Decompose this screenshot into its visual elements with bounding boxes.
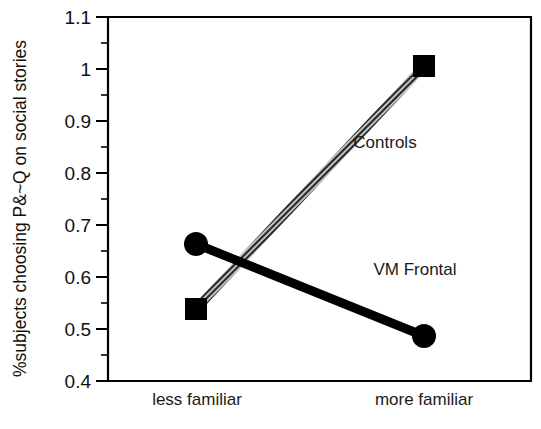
y-tick-label: 0.8 [65,163,91,184]
y-tick-label: 1.1 [65,7,91,28]
controls-marker-square [413,55,435,77]
x-category-label-less-familiar: less familiar [152,390,242,409]
series-label-vm-frontal: VM Frontal [373,260,456,279]
y-tick-label: 0.7 [65,215,91,236]
line-chart: 1.1 1 0.9 0.8 0.7 0.6 0.5 0.4 %subjects … [0,0,541,429]
y-axis-title: %subjects choosing P&~Q on social storie… [10,40,30,377]
controls-marker-square [185,298,207,320]
frame-rect [108,17,531,381]
y-tick-label: 0.9 [65,111,91,132]
y-tick-label: 0.5 [65,319,91,340]
plot-frame [108,17,531,381]
chart-container: 1.1 1 0.9 0.8 0.7 0.6 0.5 0.4 %subjects … [0,0,541,429]
vm-frontal-marker-circle [412,324,436,348]
vm-frontal-marker-circle [184,232,208,256]
series-label-controls: Controls [353,133,416,152]
x-category-label-more-familiar: more familiar [375,390,474,409]
y-axis-tick-labels: 1.1 1 0.9 0.8 0.7 0.6 0.5 0.4 [65,7,92,392]
y-tick-label: 1 [80,59,91,80]
y-tick-label: 0.4 [65,371,92,392]
y-tick-label: 0.6 [65,267,91,288]
